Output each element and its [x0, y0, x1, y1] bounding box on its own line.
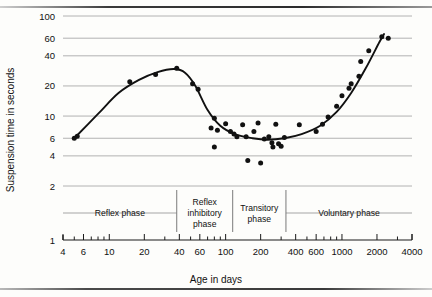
y-tick-label-4: 4 — [50, 150, 55, 161]
data-point — [262, 136, 267, 141]
data-point — [209, 125, 214, 130]
fitted-curve — [74, 34, 384, 140]
data-point — [366, 48, 371, 53]
x-tick-label-2000: 2000 — [366, 246, 387, 257]
x-tick-label-20: 20 — [139, 246, 150, 257]
data-point — [245, 158, 250, 163]
phase-label-1: Reflex — [193, 197, 218, 207]
y-tick-label-40: 40 — [44, 50, 55, 61]
y-tick-label-2: 2 — [50, 181, 55, 192]
y-tick-label-1: 1 — [50, 235, 55, 246]
data-point — [379, 34, 384, 39]
x-tick-label-4000: 4000 — [401, 246, 422, 257]
data-point — [251, 129, 256, 134]
data-point — [266, 134, 271, 139]
y-tick-label-10: 10 — [44, 111, 55, 122]
data-point — [326, 114, 331, 119]
figure-panel: 124610204060100 461020406010020040060010… — [0, 0, 432, 297]
data-point — [196, 87, 201, 92]
y-tick-label-60: 60 — [44, 33, 55, 44]
x-tick-label-10: 10 — [104, 246, 115, 257]
y-axis-title: Suspension time in seconds — [5, 68, 16, 193]
data-point — [282, 135, 287, 140]
data-point — [339, 93, 344, 98]
x-tick-label-6: 6 — [81, 246, 86, 257]
data-point — [269, 140, 274, 145]
data-point — [256, 121, 261, 126]
data-point — [320, 122, 325, 127]
x-tick-label-100: 100 — [218, 246, 234, 257]
data-point — [215, 128, 220, 133]
x-tick-label-600: 600 — [308, 246, 324, 257]
phase-annotations-group: Reflex phaseReflexinhibitoryphaseTransit… — [63, 190, 412, 232]
data-point — [75, 134, 80, 139]
phase-label-1: inhibitory — [188, 208, 223, 218]
y-tick-labels-group: 124610204060100 — [39, 11, 55, 246]
x-tick-labels-group: 4610204060100200400600100020004000 — [60, 246, 422, 257]
x-tick-label-4: 4 — [60, 246, 65, 257]
data-point — [358, 59, 363, 64]
phase-label-1: phase — [193, 219, 217, 229]
x-tick-label-1000: 1000 — [331, 246, 352, 257]
phase-label-2: phase — [248, 214, 272, 224]
x-axis-title: Age in days — [190, 274, 242, 285]
data-point — [258, 160, 263, 165]
x-axis-group — [63, 234, 412, 240]
data-point — [190, 81, 195, 86]
data-point — [127, 79, 132, 84]
data-point — [297, 122, 302, 127]
data-point — [212, 116, 217, 121]
data-point — [356, 74, 361, 79]
y-tick-label-100: 100 — [39, 11, 55, 22]
y-tick-label-20: 20 — [44, 80, 55, 91]
data-point — [223, 121, 228, 126]
fitted-curve-group — [74, 34, 384, 140]
data-point — [279, 144, 284, 149]
data-point — [334, 104, 339, 109]
data-point — [174, 66, 179, 71]
x-tick-label-400: 400 — [288, 246, 304, 257]
gridlines-group — [63, 16, 412, 186]
data-point — [386, 36, 391, 41]
x-tick-label-60: 60 — [195, 246, 206, 257]
y-tick-label-6: 6 — [50, 133, 55, 144]
data-point — [244, 134, 249, 139]
x-tick-label-200: 200 — [253, 246, 269, 257]
data-point — [212, 145, 217, 150]
data-point — [273, 122, 278, 127]
data-point — [240, 122, 245, 127]
phase-label-3: Voluntary phase — [318, 208, 380, 218]
data-point — [314, 129, 319, 134]
data-points-group — [72, 34, 391, 165]
phase-label-2: Transitory — [240, 203, 279, 213]
chart-svg: 124610204060100 461020406010020040060010… — [0, 0, 432, 297]
data-point — [347, 86, 352, 91]
x-tick-label-40: 40 — [174, 246, 185, 257]
data-point — [234, 134, 239, 139]
phase-label-0: Reflex phase — [95, 208, 145, 218]
data-point — [349, 81, 354, 86]
data-point — [153, 72, 158, 77]
data-point — [270, 145, 275, 150]
